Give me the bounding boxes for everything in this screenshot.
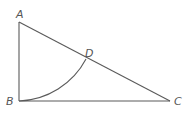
arc-bd: [19, 59, 86, 101]
label-b: B: [6, 95, 14, 108]
label-d: D: [85, 47, 93, 60]
label-c: C: [174, 95, 182, 108]
label-a: A: [15, 8, 24, 21]
triangle-diagram: A B C D: [0, 0, 191, 117]
segment-ac: [19, 22, 170, 101]
